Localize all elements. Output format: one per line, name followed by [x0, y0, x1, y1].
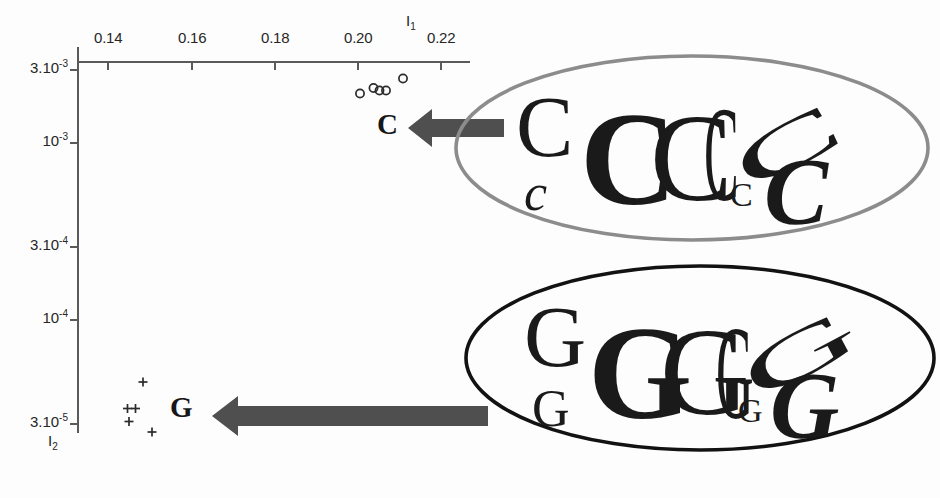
arrow-g	[210, 392, 490, 440]
data-point-g	[123, 404, 132, 413]
g-cluster-illustration: G G G G G G G G	[462, 262, 940, 462]
figure-root: 0.14 0.16 0.18 0.20 0.22 I1 3.10-3 10-3 …	[0, 0, 940, 498]
cluster-glyph-g-2: G	[532, 380, 570, 437]
c-cluster-illustration: C c C C C C C C	[452, 52, 932, 252]
series-c-markers	[356, 74, 407, 97]
data-point-g	[131, 404, 140, 413]
data-point-g	[148, 428, 157, 437]
cluster-glyph-c-2: c	[524, 164, 547, 221]
data-point-g	[139, 378, 148, 387]
annotation-label-g: G	[170, 393, 193, 422]
cluster-glyph-g-1: G	[524, 289, 586, 385]
arrow-g-shape	[212, 396, 488, 436]
data-markers-layer	[0, 0, 470, 460]
cluster-glyph-c-8: C	[764, 138, 829, 245]
data-point-c	[356, 89, 364, 97]
series-g-markers	[123, 378, 157, 437]
data-point-c	[399, 74, 407, 82]
data-point-g	[125, 417, 134, 426]
cluster-glyph-g-8: G	[770, 352, 839, 459]
cluster-glyph-c-1: C	[516, 79, 573, 175]
annotation-label-c: C	[377, 110, 398, 139]
